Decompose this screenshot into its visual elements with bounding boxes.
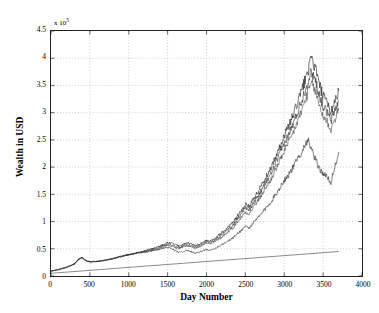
y-axis-tick-label: 3.5 <box>20 81 46 89</box>
x-axis-tick-label: 1000 <box>113 281 143 289</box>
data-series-lines <box>51 31 362 276</box>
y-axis-tick-label: 0.5 <box>20 246 46 254</box>
x-axis-tick-label: 3500 <box>309 281 339 289</box>
x-axis-tick-label: 500 <box>74 281 104 289</box>
x-axis-tick-label: 4000 <box>348 281 378 289</box>
y-axis-exponent-base: x 10 <box>54 19 66 27</box>
series-line-tt1 <box>51 80 339 272</box>
x-axis-tick-label: 2500 <box>231 281 261 289</box>
series-line-buy-and-hold <box>51 138 339 271</box>
y-axis-tick-label: 4 <box>20 53 46 61</box>
y-axis-tick-label: 2 <box>20 163 46 171</box>
y-axis-tick-label: 4.5 <box>20 26 46 34</box>
series-line-tt2 <box>51 68 339 271</box>
y-axis-tick-label: 0 <box>20 273 46 281</box>
x-axis-tick-label: 2000 <box>192 281 222 289</box>
y-axis-tick-label: 1 <box>20 218 46 226</box>
x-axis-tick-label: 3000 <box>270 281 300 289</box>
y-axis-title: Wealth in USD <box>15 87 25 207</box>
plot-area <box>50 30 363 277</box>
y-axis-exponent-multiplier: x 105 <box>54 17 69 27</box>
x-axis-tick-label: 1500 <box>152 281 182 289</box>
series-line-bank <box>51 252 339 274</box>
x-axis-title: Day Number <box>50 292 363 302</box>
y-axis-exponent-power: 5 <box>66 17 69 23</box>
y-axis-tick-label: 1.5 <box>20 191 46 199</box>
y-axis-tick-label: 3 <box>20 108 46 116</box>
series-line-tt3 <box>51 56 339 271</box>
figure-wealth-chart: x 105 Wealth in USD Day Number 00.511.52… <box>0 0 379 313</box>
x-axis-tick-label: 0 <box>35 281 65 289</box>
y-axis-tick-label: 2.5 <box>20 136 46 144</box>
